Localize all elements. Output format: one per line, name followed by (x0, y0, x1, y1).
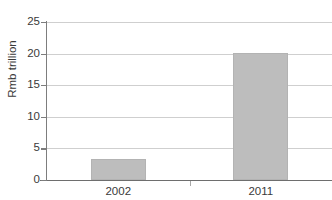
x-axis-line (40, 180, 332, 181)
gridline (47, 22, 332, 23)
y-axis-tick-label: 25 (14, 16, 40, 27)
bar-chart-figure: Rmb trillion 0510152025 20022011 (0, 0, 332, 200)
y-axis-tick-mark (41, 85, 47, 86)
bar-2002 (91, 159, 146, 180)
y-axis-tick-label: 20 (14, 48, 40, 59)
gridline (47, 148, 332, 149)
y-axis-tick-mark (41, 54, 47, 55)
y-axis-tick-mark (41, 180, 47, 181)
gridline (47, 54, 332, 55)
y-axis-tick-mark (41, 117, 47, 118)
y-axis-tick-mark (41, 148, 47, 149)
y-axis-tick-label: 15 (14, 79, 40, 90)
y-axis-tick-label: 5 (14, 142, 40, 153)
y-axis-tick-labels: 0510152025 (10, 0, 40, 200)
bar-2011 (233, 53, 288, 180)
x-axis-tick-label: 2002 (78, 185, 158, 198)
chart-title-cropped (0, 0, 332, 3)
gridline (47, 85, 332, 86)
gridline (47, 117, 332, 118)
y-axis-tick-label: 10 (14, 111, 40, 122)
y-axis-tick-label: 0 (14, 174, 40, 185)
y-axis-tick-mark (41, 22, 47, 23)
plot-area (47, 22, 332, 180)
y-axis-line (46, 21, 47, 181)
x-axis-tick-label: 2011 (221, 185, 301, 198)
x-axis-category-tick (190, 181, 191, 186)
